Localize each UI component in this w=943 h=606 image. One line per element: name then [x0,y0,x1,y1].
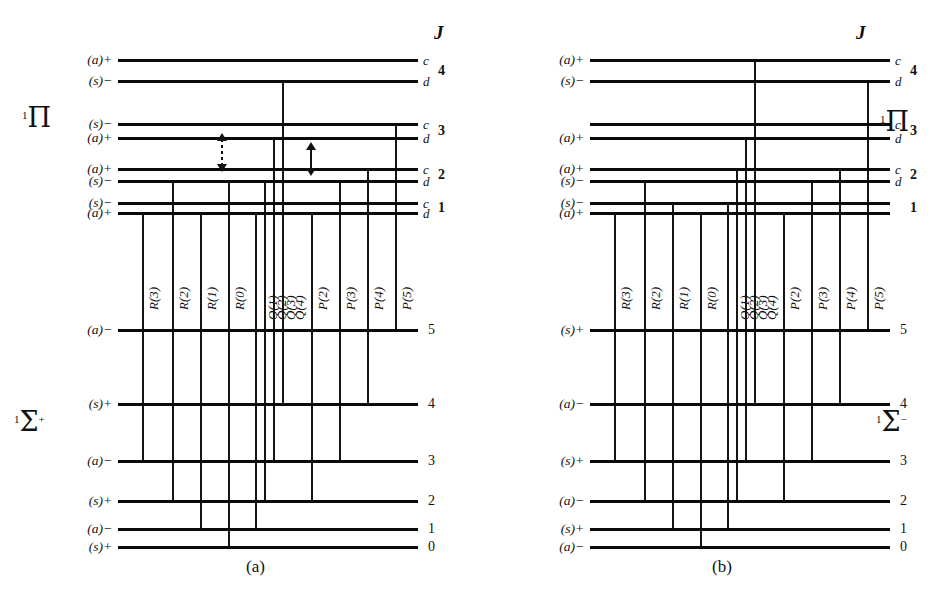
upper-level-J3-c [590,123,890,126]
upper-J-number-1: 1 [910,201,917,215]
upper-parity-label-J3-2: (s)− [46,117,112,131]
transition-line-Q4[interactable] [754,59,756,403]
lambda-doublet-label-d-J2: d [895,175,902,188]
upper-parity-label-J4-0: (a)+ [46,53,112,67]
transition-line-R0[interactable] [228,180,230,546]
lower-parity-label-J0: (a)− [518,540,584,554]
transition-line-Q1[interactable] [727,202,729,528]
upper-level-J4-c [590,59,890,62]
transition-line-P2[interactable] [311,212,313,500]
lower-parity-label-J5: (a)− [46,323,112,337]
lower-parity-label-J3: (a)− [46,454,112,468]
transition-tick-Q1 [255,236,257,250]
transition-tick-R3 [614,236,616,250]
transition-tick-R3 [142,236,144,250]
transition-tick-Q4 [282,236,284,250]
allowed-transition-arrow-head-down [306,168,316,176]
branch-label-Q4: Q(4) [765,295,778,320]
branch-label-P2: P(2) [316,287,329,310]
transition-line-R1[interactable] [672,202,674,528]
transition-line-Q1[interactable] [255,212,257,528]
lower-J-number-2: 2 [428,494,435,508]
lambda-doublet-label-d-J1: d [423,207,430,220]
upper-level-J1-6 [590,202,890,205]
lower-term-symbol-a: 1Σ+ [14,408,45,435]
transition-tick-P2 [783,236,785,250]
upper-J-number-3: 3 [438,124,445,138]
transition-line-P3[interactable] [339,180,341,460]
upper-level-J1-d [118,212,418,215]
transition-tick-R1 [672,236,674,250]
lower-J-number-5: 5 [428,323,435,337]
panel-b-caption: (b) [712,557,732,577]
upper-level-J3-d [590,137,890,140]
transition-line-P2[interactable] [783,212,785,500]
lower-level-J4 [118,403,418,406]
transition-line-R2[interactable] [172,180,174,500]
transition-line-R2[interactable] [644,180,646,500]
transition-line-Q3[interactable] [745,137,747,460]
lower-level-J0 [118,546,418,549]
lower-J-number-2: 2 [900,494,907,508]
branch-label-P4: P(4) [844,287,857,310]
branch-label-R1: R(1) [205,287,218,310]
upper-parity-label-J3-3: (a)+ [518,131,584,145]
transition-line-Q2[interactable] [264,180,266,500]
branch-label-R0: R(0) [233,287,246,310]
upper-J-number-4: 4 [910,64,917,78]
lower-level-J1 [590,528,890,531]
upper-level-J1-c [118,202,418,205]
lambda-doublet-label-c-J3: c [423,118,429,131]
upper-level-J4-d [118,80,418,83]
lower-J-number-3: 3 [900,454,907,468]
transition-tick-P3 [811,236,813,250]
branch-label-P5: P(5) [872,287,885,310]
upper-level-J4-d [590,80,890,83]
transition-tick-R2 [172,236,174,250]
lower-J-number-3: 3 [428,454,435,468]
upper-parity-label-J4-1: (s)− [518,74,584,88]
upper-parity-label-J1-7: (a)+ [518,206,584,220]
transition-line-Q3[interactable] [273,137,275,460]
transition-line-Q2[interactable] [736,168,738,500]
transition-tick-P5 [395,236,397,250]
branch-label-P3: P(3) [816,287,829,310]
upper-J-number-4: 4 [438,64,445,78]
transition-tick-P2 [311,236,313,250]
transition-line-R1[interactable] [200,212,202,528]
figure-root: J 1Π 1Σ+ (a) R(3)R(2)R(1)R(0)Q(1)Q(2)Q(3… [0,0,943,606]
transition-tick-P4 [367,236,369,250]
panel-a: J 1Π 1Σ+ (a) R(3)R(2)R(1)R(0)Q(1)Q(2)Q(3… [0,0,472,606]
lower-parity-label-J2: (s)+ [46,494,112,508]
transition-tick-Q3 [745,236,747,250]
upper-J-number-2: 2 [438,168,445,182]
lower-level-J5 [590,329,890,332]
lower-level-J4 [590,403,890,406]
upper-level-J3-d [118,137,418,140]
j-header-b: J [856,22,866,44]
lower-level-J0 [590,546,890,549]
lambda-doublet-label-d-J3: d [895,132,902,145]
transition-line-R0[interactable] [700,212,702,546]
transition-line-P3[interactable] [811,180,813,460]
upper-level-J2-d [118,180,418,183]
lower-level-J2 [590,500,890,503]
lower-J-number-5: 5 [900,323,907,337]
transition-line-P5[interactable] [395,123,397,329]
transition-tick-Q2 [264,236,266,250]
lower-J-number-4: 4 [428,397,435,411]
transition-tick-Q2 [736,236,738,250]
transition-tick-P4 [839,236,841,250]
lambda-doublet-label-d-J4: d [895,75,902,88]
upper-parity-label-J2-5: (s)− [518,174,584,188]
upper-J-number-1: 1 [438,201,445,215]
lambda-doublet-label-c-J3: c [895,118,901,131]
lower-J-number-4: 4 [900,397,907,411]
upper-J-number-2: 2 [910,168,917,182]
upper-level-J4-c [118,59,418,62]
panel-a-caption: (a) [246,557,265,577]
upper-level-J2-c [590,168,890,171]
lower-level-J3 [590,460,890,463]
lower-level-J2 [118,500,418,503]
forbidden-transition-arrow-head-up [217,133,227,141]
